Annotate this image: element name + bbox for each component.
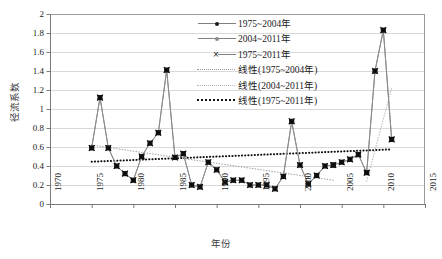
legend-label: 1975~2011年	[238, 50, 291, 60]
legend-label: 2004~2011年	[238, 34, 291, 44]
legend-key-line-dot-dark	[196, 17, 238, 31]
y-axis-title: 径流系数	[7, 62, 21, 142]
x-tick-label: 1980	[137, 173, 146, 207]
legend-label: 线性(1975~2004年)	[238, 65, 317, 75]
legend-label: 1975~2004年	[238, 19, 291, 29]
legend-key-line-dot-gray	[196, 32, 238, 46]
x-tick-label: 1985	[179, 173, 188, 207]
x-axis-title: 年份	[0, 236, 442, 250]
legend-label: 线性(2004~2011年)	[238, 81, 317, 91]
legend-item: 2004~2011年	[196, 32, 346, 48]
legend-item: 线性(1975~2011年)	[196, 94, 346, 110]
legend-key-dotted-fine	[196, 63, 238, 77]
legend-item: 1975~2004年	[196, 16, 346, 32]
legend-key-dotted-bold	[196, 94, 238, 108]
legend-key-dotted-fine-light	[196, 79, 238, 93]
legend-key-x-marker: ×	[196, 48, 238, 62]
legend-trendline	[197, 85, 235, 86]
legend-marker-dot	[215, 37, 219, 41]
legend-marker-dot	[215, 22, 219, 26]
x-tick-label: 2010	[387, 173, 396, 207]
x-tick-label: 1990	[221, 173, 230, 207]
x-tick-label: 1995	[262, 173, 271, 207]
legend-item: ×1975~2011年	[196, 47, 346, 63]
x-tick-label: 2015	[429, 173, 438, 207]
legend-marker-x-icon: ×	[213, 49, 219, 60]
legend-trendline	[197, 99, 235, 101]
x-tick-label: 2005	[346, 173, 355, 207]
chart-legend: 1975~2004年2004~2011年×1975~2011年线性(1975~2…	[196, 16, 346, 109]
runoff-coefficient-chart: 21.81.61.41.210.80.60.40.20 197019751980…	[0, 0, 442, 259]
x-tick-label: 1975	[96, 173, 105, 207]
legend-item: 线性(2004~2011年)	[196, 78, 346, 94]
legend-item: 线性(1975~2004年)	[196, 63, 346, 79]
legend-label: 线性(1975~2011年)	[238, 96, 317, 106]
legend-line	[218, 54, 236, 55]
x-tick-label: 1970	[54, 173, 63, 207]
legend-trendline	[197, 69, 235, 70]
x-tick-label: 2000	[304, 173, 313, 207]
